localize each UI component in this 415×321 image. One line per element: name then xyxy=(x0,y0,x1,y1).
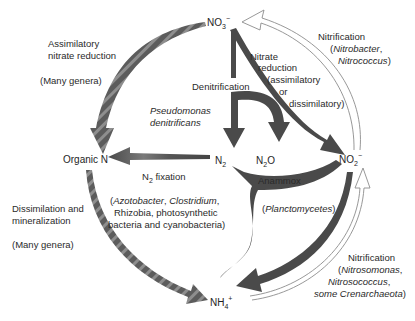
svg-text:Nitrification: Nitrification xyxy=(348,252,395,263)
node-nitrite: NO2− xyxy=(339,152,362,167)
svg-text:some Crenarchaeota): some Crenarchaeota) xyxy=(314,288,406,299)
svg-text:Nitrosococcus,: Nitrosococcus, xyxy=(328,276,390,287)
label-anammox: Anammox (Planctomycetes) xyxy=(258,175,335,214)
svg-text:N2 fixation: N2 fixation xyxy=(142,171,186,184)
nitrogen-cycle-diagram: NO3− NO2− N2 N2O Organic N NH4+ Assimila… xyxy=(0,0,415,321)
svg-text:Rhizobia, photosynthetic: Rhizobia, photosynthetic xyxy=(114,207,218,218)
svg-text:(Nitrosomonas,: (Nitrosomonas, xyxy=(338,264,402,275)
svg-text:(Many genera): (Many genera) xyxy=(40,75,102,86)
node-nitrous-oxide: N2O xyxy=(256,155,275,168)
label-n2-fixation: N2 fixation (Azotobacter, Clostridium, R… xyxy=(108,171,225,230)
svg-text:or: or xyxy=(279,86,287,97)
label-assimilatory-nitrate-reduction: Assimilatory nitrate reduction (Many gen… xyxy=(40,38,116,86)
svg-text:Anammox: Anammox xyxy=(258,175,301,186)
svg-text:Assimilatory: Assimilatory xyxy=(48,38,99,49)
svg-text:Denitrification: Denitrification xyxy=(192,81,250,92)
svg-text:dissimilatory): dissimilatory) xyxy=(289,98,344,109)
svg-text:nitrate reduction: nitrate reduction xyxy=(48,50,116,61)
svg-text:Nitrococcus): Nitrococcus) xyxy=(338,55,391,66)
label-dissimilation-mineralization: Dissimilation and mineralization (Many g… xyxy=(12,203,84,250)
node-nitrate: NO3− xyxy=(207,15,230,30)
svg-text:Nitrate: Nitrate xyxy=(250,51,278,62)
svg-text:bacteria and cyanobacteria): bacteria and cyanobacteria) xyxy=(108,219,225,230)
svg-text:(Nitrobacter,: (Nitrobacter, xyxy=(330,43,382,54)
svg-text:mineralization: mineralization xyxy=(12,215,71,226)
node-dinitrogen: N2 xyxy=(215,155,226,168)
svg-text:(Planctomycetes): (Planctomycetes) xyxy=(262,203,335,214)
svg-text:(Many genera): (Many genera) xyxy=(12,239,74,250)
svg-text:Dissimilation and: Dissimilation and xyxy=(12,203,84,214)
svg-text:reduction: reduction xyxy=(258,62,297,73)
arrow-assimilatory-nitrate-reduction xyxy=(90,22,206,154)
svg-text:(assimilatory: (assimilatory xyxy=(267,74,321,85)
node-organic-n: Organic N xyxy=(63,154,108,165)
arrow-dissimilation-mineralization xyxy=(86,170,208,304)
svg-text:(Azotobacter, Clostridium,: (Azotobacter, Clostridium, xyxy=(110,195,219,206)
node-ammonium: NH4+ xyxy=(210,295,232,310)
svg-text:denitrificans: denitrificans xyxy=(150,117,201,128)
svg-text:Pseudomonas: Pseudomonas xyxy=(150,105,211,116)
arrow-n2-fixation xyxy=(108,147,210,165)
svg-text:Nitrification: Nitrification xyxy=(318,31,365,42)
